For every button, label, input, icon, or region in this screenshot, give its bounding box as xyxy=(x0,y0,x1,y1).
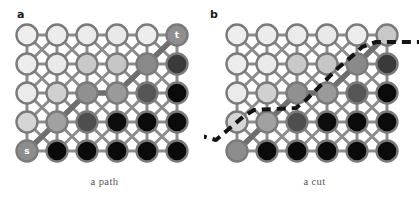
graph-node[interactable] xyxy=(47,112,68,133)
graph-node[interactable] xyxy=(17,54,38,75)
panel-b-graph xyxy=(204,0,419,172)
graph-node[interactable] xyxy=(257,54,278,75)
graph-node[interactable] xyxy=(167,112,188,133)
graph-node[interactable] xyxy=(377,83,398,104)
figure-two-panel-graph: a st a path b a cut xyxy=(0,0,419,201)
graph-node[interactable] xyxy=(137,141,158,162)
graph-node[interactable] xyxy=(287,112,308,133)
graph-node[interactable] xyxy=(47,25,68,46)
graph-node[interactable] xyxy=(227,25,248,46)
graph-node[interactable] xyxy=(77,54,98,75)
graph-node[interactable] xyxy=(347,83,368,104)
graph-node[interactable] xyxy=(17,83,38,104)
panel-a-caption: a path xyxy=(0,176,209,187)
graph-node[interactable] xyxy=(317,112,338,133)
panel-a-graph: st xyxy=(0,0,209,172)
graph-node[interactable] xyxy=(137,112,158,133)
graph-node[interactable] xyxy=(17,25,38,46)
graph-node[interactable] xyxy=(257,25,278,46)
graph-node[interactable] xyxy=(257,83,278,104)
graph-node[interactable] xyxy=(107,141,128,162)
terminal-label-sink: t xyxy=(175,30,180,40)
graph-node[interactable] xyxy=(137,54,158,75)
graph-node[interactable] xyxy=(167,141,188,162)
graph-node[interactable] xyxy=(77,83,98,104)
graph-node[interactable] xyxy=(377,141,398,162)
graph-node[interactable] xyxy=(227,54,248,75)
graph-node[interactable] xyxy=(227,141,248,162)
graph-node[interactable] xyxy=(47,83,68,104)
graph-node[interactable] xyxy=(77,25,98,46)
graph-node[interactable] xyxy=(107,25,128,46)
graph-node[interactable] xyxy=(167,54,188,75)
terminal-label-source: s xyxy=(24,146,29,156)
graph-node[interactable] xyxy=(287,25,308,46)
graph-node[interactable] xyxy=(107,112,128,133)
graph-node[interactable] xyxy=(377,112,398,133)
graph-node[interactable] xyxy=(347,112,368,133)
graph-node[interactable] xyxy=(347,141,368,162)
graph-node[interactable] xyxy=(257,141,278,162)
graph-node[interactable] xyxy=(377,54,398,75)
graph-node[interactable] xyxy=(107,54,128,75)
graph-node[interactable] xyxy=(227,83,248,104)
graph-node[interactable] xyxy=(77,112,98,133)
panel-b-cut: b a cut xyxy=(210,0,419,201)
panel-b-caption: a cut xyxy=(210,176,419,187)
graph-node[interactable] xyxy=(137,83,158,104)
graph-node[interactable] xyxy=(137,25,158,46)
graph-node[interactable] xyxy=(287,54,308,75)
graph-node[interactable] xyxy=(257,112,278,133)
graph-node[interactable] xyxy=(47,54,68,75)
graph-node[interactable] xyxy=(317,141,338,162)
graph-node[interactable] xyxy=(107,83,128,104)
graph-node[interactable] xyxy=(317,25,338,46)
graph-node[interactable] xyxy=(77,141,98,162)
graph-node[interactable] xyxy=(347,25,368,46)
graph-node[interactable] xyxy=(317,54,338,75)
graph-node[interactable] xyxy=(167,83,188,104)
panel-a-path: a st a path xyxy=(0,0,209,201)
graph-node[interactable] xyxy=(287,141,308,162)
graph-node[interactable] xyxy=(17,112,38,133)
graph-node[interactable] xyxy=(47,141,68,162)
